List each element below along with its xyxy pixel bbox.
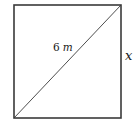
diagonal-value: 6 [53,41,60,53]
diagonal-line [14,5,121,118]
diagonal-label: 6m [53,41,73,53]
square-diagram: 6m x [0,0,138,127]
diagonal-unit: m [63,41,73,53]
side-label: x [125,48,133,63]
